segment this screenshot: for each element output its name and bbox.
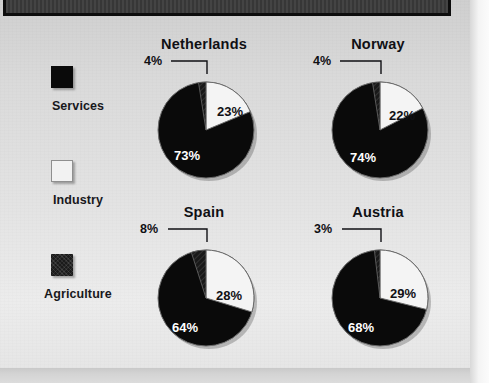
pie-callout-austria: 3% <box>314 222 332 236</box>
legend-item-industry[interactable]: Industry <box>24 160 132 207</box>
pie-value-norway-services: 74% <box>350 150 376 165</box>
pie-value-netherlands-services: 73% <box>174 148 200 163</box>
screenshot-root: Services Industry Agriculture Netherland… <box>0 0 489 383</box>
header-bar <box>3 0 451 16</box>
legend-item-agriculture[interactable]: Agriculture <box>24 254 132 301</box>
legend-label-services: Services <box>24 99 132 113</box>
pie-value-netherlands-industry: 23% <box>217 104 243 119</box>
legend-swatch-industry-icon <box>51 160 73 182</box>
legend-swatch-agriculture-icon <box>51 254 73 276</box>
pie-value-austria-services: 68% <box>348 320 374 335</box>
pie-callout-norway: 4% <box>313 54 331 68</box>
pie-value-spain-services: 64% <box>172 320 198 335</box>
pie-value-spain-industry: 28% <box>216 288 242 303</box>
pie-callouts-norway: 4% 22% 74% <box>298 50 458 180</box>
legend-label-agriculture: Agriculture <box>24 287 132 301</box>
header-bar-texture <box>6 0 448 13</box>
pie-value-austria-industry: 29% <box>390 286 416 301</box>
page-right-edge <box>470 0 489 383</box>
page-bottom-edge <box>0 368 470 383</box>
pie-callouts-spain: 8% 28% 64% <box>124 218 284 348</box>
pie-callout-spain: 8% <box>140 222 158 236</box>
pie-value-norway-industry: 22% <box>389 108 415 123</box>
legend-label-industry: Industry <box>24 193 132 207</box>
legend-item-services[interactable]: Services <box>24 66 132 113</box>
pie-callouts-netherlands: 4% 23% 73% <box>124 50 284 180</box>
pie-callouts-austria: 3% 29% 68% <box>298 218 458 348</box>
legend-swatch-services-icon <box>51 66 73 88</box>
pie-callout-netherlands: 4% <box>144 54 162 68</box>
